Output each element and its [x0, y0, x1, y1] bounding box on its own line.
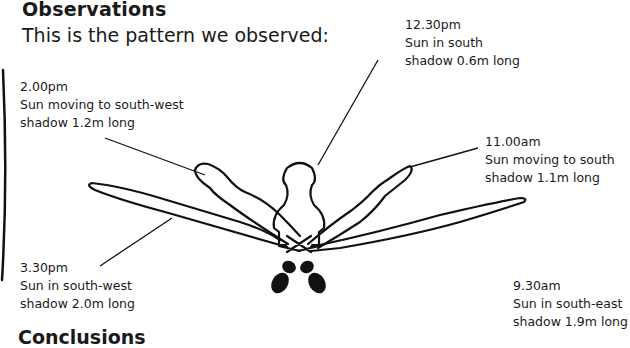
shadow-1230pm: [274, 163, 325, 245]
leader-200pm: [105, 138, 205, 175]
leader-1100am: [410, 148, 478, 167]
page-edge: [2, 70, 5, 280]
footprints-icon: [268, 259, 330, 297]
shadow-330pm: [89, 183, 287, 247]
leader-330pm: [100, 218, 172, 266]
shadow-930am: [311, 198, 525, 251]
leader-1230pm: [318, 60, 378, 165]
